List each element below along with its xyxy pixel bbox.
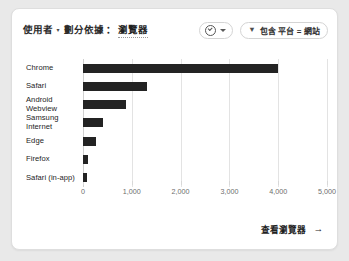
bar[interactable] — [83, 137, 96, 146]
bar[interactable] — [83, 173, 87, 182]
bar-row[interactable] — [83, 59, 327, 77]
tick-mark — [181, 181, 182, 185]
bar-chart: ChromeSafariAndroid WebviewSamsung Inter… — [12, 51, 338, 209]
view-browsers-link[interactable]: 查看瀏覽器 → — [261, 223, 324, 235]
bar[interactable] — [83, 100, 126, 109]
tick-label: 5,000 — [318, 187, 336, 196]
bar-row[interactable] — [83, 150, 327, 168]
arrow-right-icon: → — [314, 224, 324, 234]
view-browsers-label: 查看瀏覽器 — [261, 223, 307, 235]
category-label: Chrome — [12, 59, 83, 77]
tick-mark — [132, 181, 133, 185]
value-axis: 01,0002,0003,0004,0005,000 — [83, 187, 327, 209]
title-colon: ： — [106, 22, 116, 36]
filter-chip-label: 包含 平台 = 網站 — [260, 25, 320, 36]
title-dimension[interactable]: 瀏覽器 — [118, 22, 148, 38]
bar[interactable] — [83, 82, 147, 91]
metric-selector-button[interactable] — [199, 22, 233, 39]
title-metric[interactable]: 使用者 — [23, 22, 54, 36]
tick-label: 0 — [81, 187, 85, 196]
browser-users-card: 使用者 ▾ 劃分依據 ： 瀏覽器 ▼ 包含 平台 = 網站 ChromeSafa… — [11, 8, 338, 250]
bar-row[interactable] — [83, 132, 327, 150]
bar-row[interactable] — [83, 114, 327, 132]
gridline — [327, 59, 328, 187]
category-label: Android Webview — [12, 96, 83, 114]
bar-row[interactable] — [83, 77, 327, 95]
tick-label: 1,000 — [123, 187, 141, 196]
filter-icon: ▼ — [248, 26, 255, 34]
tick-label: 4,000 — [269, 187, 287, 196]
category-label: Samsung Internet — [12, 114, 83, 132]
chevron-down-icon[interactable]: ▾ — [57, 26, 60, 33]
tick-label: 2,000 — [172, 187, 190, 196]
bar[interactable] — [83, 118, 103, 127]
circle-check-icon — [205, 25, 216, 36]
plot-area — [83, 59, 327, 187]
filter-chip[interactable]: ▼ 包含 平台 = 網站 — [240, 22, 328, 39]
header-controls: ▼ 包含 平台 = 網站 — [199, 22, 328, 39]
card-footer: 查看瀏覽器 → — [12, 209, 337, 249]
chevron-down-icon — [220, 29, 226, 32]
bar-row[interactable] — [83, 96, 327, 114]
category-label: Safari — [12, 77, 83, 95]
bar[interactable] — [83, 64, 278, 73]
bar-rows — [83, 59, 327, 187]
category-label: Firefox — [12, 150, 83, 168]
tick-mark — [327, 181, 328, 185]
category-axis-labels: ChromeSafariAndroid WebviewSamsung Inter… — [12, 59, 83, 187]
page-title[interactable]: 使用者 ▾ 劃分依據 ： 瀏覽器 — [23, 22, 148, 38]
category-label: Safari (in-app) — [12, 169, 83, 187]
tick-mark — [229, 181, 230, 185]
card-header: 使用者 ▾ 劃分依據 ： 瀏覽器 ▼ 包含 平台 = 網站 — [12, 9, 337, 51]
tick-mark — [278, 181, 279, 185]
category-label: Edge — [12, 132, 83, 150]
bar[interactable] — [83, 155, 88, 164]
bar-row[interactable] — [83, 169, 327, 187]
tick-label: 3,000 — [220, 187, 238, 196]
title-breakdown-label: 劃分依據 — [64, 22, 105, 36]
